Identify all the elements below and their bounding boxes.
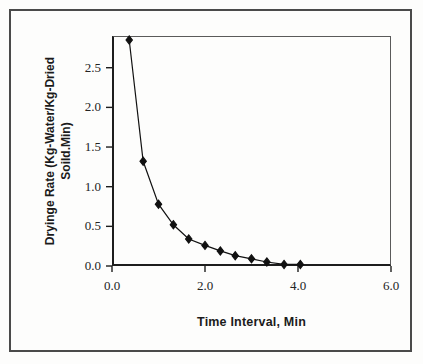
chart-figure: 0.00.51.01.52.02.5 0.02.04.06.0 Time Int… (0, 0, 423, 364)
plot-area-border (112, 36, 391, 266)
x-axis-title: Time Interval, Min (112, 315, 391, 329)
y-axis-title-line-1: Dryinge Rate (Kg-Water/Kg-Dried (42, 57, 58, 245)
x-axis-tick-label: 4.0 (290, 278, 306, 294)
x-axis-tick-label: 6.0 (383, 278, 399, 294)
x-axis-tick-label: 0.0 (104, 278, 120, 294)
x-axis-tick-label: 2.0 (197, 278, 213, 294)
y-axis-title: Dryinge Rate (Kg-Water/Kg-Dried Soild.Mi… (28, 36, 88, 266)
y-axis-title-line-2: Soild.Min) (58, 122, 74, 179)
